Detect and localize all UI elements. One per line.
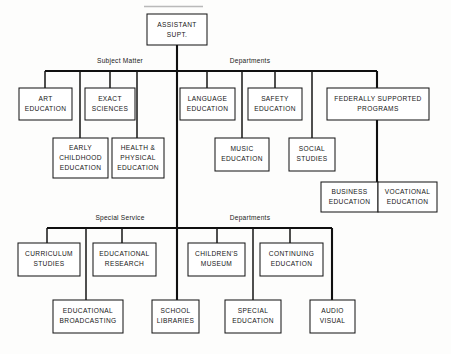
node-educational-research[interactable]: EDUCATIONAL RESEARCH [93, 243, 156, 276]
node-childrens-museum[interactable]: CHILDREN'S MUSEUM [188, 243, 245, 276]
node-early-childhood-education-line1: EARLY [69, 144, 92, 151]
node-continuing-education-line2: EDUCATION [271, 260, 313, 267]
node-early-childhood-education[interactable]: EARLY CHILDHOOD EDUCATION [53, 138, 108, 178]
organizational-chart: Subject Matter Departments Special Servi… [0, 0, 451, 354]
node-educational-research-line1: EDUCATIONAL [99, 250, 149, 257]
node-early-childhood-education-line2: CHILDHOOD [59, 154, 102, 161]
node-art-education-line2: EDUCATION [25, 105, 67, 112]
node-social-studies[interactable]: SOCIAL STUDIES [289, 138, 335, 171]
node-social-studies-line1: SOCIAL [299, 145, 325, 152]
group-label-departments-upper: Departments [230, 57, 271, 65]
node-music-education-line2: EDUCATION [221, 155, 263, 162]
node-health-physical-education-line1: HEALTH & [121, 144, 156, 151]
group-label-subject-matter: Subject Matter [97, 57, 144, 65]
node-language-education-line1: LANGUAGE [188, 95, 228, 102]
node-exact-sciences-line1: EXACT [98, 95, 122, 102]
node-assistant-supt-box[interactable] [147, 14, 207, 45]
node-assistant-supt[interactable]: ASSISTANT SUPT. [147, 14, 207, 45]
node-childrens-museum-line2: MUSEUM [201, 260, 232, 267]
node-vocational-education-line2: EDUCATION [387, 198, 429, 205]
node-early-childhood-education-line3: EDUCATION [60, 164, 102, 171]
node-educational-broadcasting-line1: EDUCATIONAL [63, 307, 113, 314]
node-assistant-supt-line1: ASSISTANT [157, 21, 196, 28]
node-federally-supported-programs-line1: FEDERALLY SUPPORTED [334, 95, 421, 102]
node-curriculum-studies[interactable]: CURRICULUM STUDIES [18, 243, 80, 276]
node-art-education[interactable]: ART EDUCATION [19, 88, 72, 120]
group-label-departments-lower: Departments [230, 214, 271, 222]
node-language-education[interactable]: LANGUAGE EDUCATION [180, 88, 235, 120]
node-special-education-line1: SPECIAL [238, 307, 268, 314]
node-safety-education-line1: SAFETY [261, 95, 289, 102]
node-business-education-line2: EDUCATION [329, 198, 371, 205]
node-audio-visual-line2: VISUAL [320, 317, 346, 324]
node-childrens-museum-line1: CHILDREN'S [195, 250, 238, 257]
node-health-physical-education-line3: EDUCATION [117, 164, 159, 171]
group-label-special-service: Special Service [95, 214, 144, 222]
node-school-libraries[interactable]: SCHOOL LIBRARIES [152, 300, 199, 333]
node-federally-supported-programs-line2: PROGRAMS [357, 105, 399, 112]
node-educational-broadcasting-line2: BROADCASTING [60, 317, 117, 324]
node-vocational-education-line1: VOCATIONAL [385, 188, 431, 195]
node-business-education-line1: BUSINESS [331, 188, 367, 195]
node-safety-education-line2: EDUCATION [254, 105, 296, 112]
node-special-education[interactable]: SPECIAL EDUCATION [225, 300, 281, 333]
node-continuing-education[interactable]: CONTINUING EDUCATION [260, 243, 323, 276]
node-business-education[interactable]: BUSINESS EDUCATION [321, 182, 378, 212]
node-assistant-supt-line2: SUPT. [167, 31, 187, 38]
node-special-education-line2: EDUCATION [232, 317, 274, 324]
node-music-education-line1: MUSIC [231, 145, 254, 152]
node-school-libraries-line2: LIBRARIES [157, 317, 195, 324]
org-chart-container: Subject Matter Departments Special Servi… [0, 0, 451, 354]
node-continuing-education-line1: CONTINUING [269, 250, 314, 257]
node-educational-research-line2: RESEARCH [105, 260, 144, 267]
node-curriculum-studies-line2: STUDIES [33, 260, 64, 267]
node-health-physical-education[interactable]: HEALTH & PHYSICAL EDUCATION [112, 138, 164, 178]
node-curriculum-studies-line1: CURRICULUM [25, 250, 73, 257]
node-vocational-education[interactable]: VOCATIONAL EDUCATION [378, 182, 437, 212]
node-language-education-line2: EDUCATION [187, 105, 229, 112]
node-exact-sciences[interactable]: EXACT SCIENCES [85, 88, 135, 120]
node-social-studies-line2: STUDIES [296, 155, 327, 162]
node-safety-education[interactable]: SAFETY EDUCATION [248, 88, 302, 120]
node-school-libraries-line1: SCHOOL [161, 307, 191, 314]
node-exact-sciences-line2: SCIENCES [92, 105, 129, 112]
node-educational-broadcasting[interactable]: EDUCATIONAL BROADCASTING [53, 300, 123, 333]
node-health-physical-education-line2: PHYSICAL [120, 154, 155, 161]
node-audio-visual-line1: AUDIO [321, 307, 344, 314]
node-federally-supported-programs[interactable]: FEDERALLY SUPPORTED PROGRAMS [327, 88, 429, 120]
node-audio-visual[interactable]: AUDIO VISUAL [310, 300, 355, 333]
node-music-education[interactable]: MUSIC EDUCATION [215, 138, 269, 171]
node-art-education-line1: ART [38, 95, 52, 102]
